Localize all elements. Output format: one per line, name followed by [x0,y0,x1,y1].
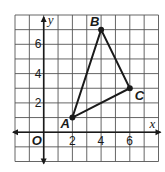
x-tick-label: 2 [69,134,76,148]
x-axis-label: x [149,116,156,131]
labels: yxO246246ABC [32,12,156,148]
vertex-c-dot [127,85,133,91]
y-axis-label: y [46,12,54,27]
x-tick-label: 6 [126,134,133,148]
y-tick-label: 6 [35,37,42,51]
y-axis-up-arrow-icon [41,16,47,22]
y-tick-label: 2 [35,96,42,110]
vertex-c-label: C [135,88,145,103]
origin-label: O [32,133,42,148]
vertex-b-label: B [90,14,99,29]
y-tick-label: 4 [35,67,42,81]
vertex-a-dot [69,115,75,121]
coordinate-plane: yxO246246ABC [0,0,165,172]
x-tick-label: 4 [98,134,105,148]
vertex-a-label: A [59,116,69,131]
